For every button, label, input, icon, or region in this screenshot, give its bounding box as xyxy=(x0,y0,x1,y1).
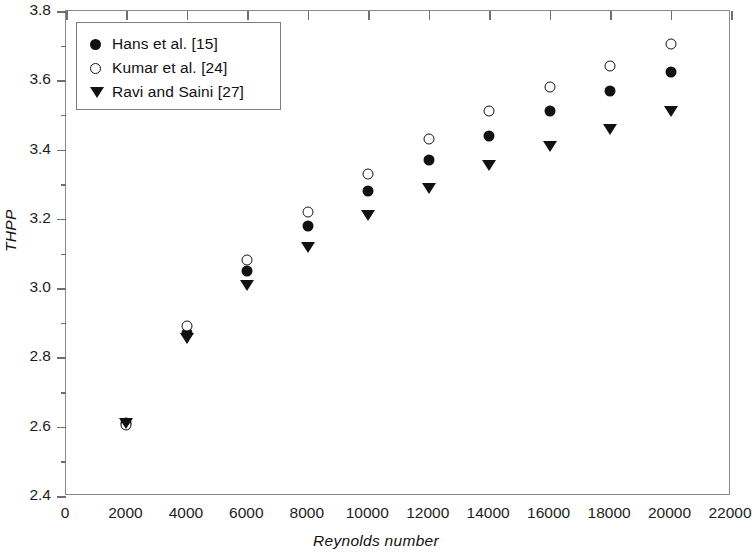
y-tick xyxy=(57,288,66,290)
y-minor-tick xyxy=(61,254,66,256)
y-tick-label: 2.8 xyxy=(29,348,51,364)
x-tick xyxy=(731,11,733,20)
data-point-down-triangle xyxy=(240,280,254,291)
data-point-filled-circle xyxy=(484,130,495,141)
y-tick xyxy=(57,150,66,152)
legend-label: Ravi and Saini [27] xyxy=(112,83,244,101)
scatter-chart-figure: THPP 2.42.62.83.03.23.43.63.8 0200040006… xyxy=(0,0,752,557)
y-tick xyxy=(57,11,66,13)
y-axis-title: THPP xyxy=(2,209,20,252)
x-tick xyxy=(489,11,491,20)
legend-entry-hans: Hans et al. [15] xyxy=(77,32,280,56)
data-point-open-circle xyxy=(363,168,374,179)
x-tick xyxy=(550,11,552,20)
y-tick xyxy=(57,427,66,429)
y-tick-label: 2.6 xyxy=(29,418,51,434)
y-minor-tick xyxy=(61,184,66,186)
data-point-open-circle xyxy=(484,106,495,117)
legend: Hans et al. [15] Kumar et al. [24] Ravi … xyxy=(76,22,281,110)
y-minor-tick xyxy=(61,392,66,394)
data-point-filled-circle xyxy=(242,265,253,276)
x-tick xyxy=(610,11,612,20)
y-tick-label: 3.2 xyxy=(29,210,51,226)
data-point-open-circle xyxy=(544,82,555,93)
x-tick xyxy=(671,11,673,20)
legend-entry-kumar: Kumar et al. [24] xyxy=(77,56,280,80)
y-tick xyxy=(57,357,66,359)
data-point-filled-circle xyxy=(544,106,555,117)
data-point-down-triangle xyxy=(301,242,315,253)
x-axis-title: Reynolds number xyxy=(0,532,752,550)
legend-entry-ravi: Ravi and Saini [27] xyxy=(77,80,280,104)
legend-label: Hans et al. [15] xyxy=(112,35,218,53)
y-minor-tick xyxy=(61,323,66,325)
y-minor-tick xyxy=(61,115,66,117)
x-tick xyxy=(187,11,189,20)
filled-circle-icon xyxy=(90,39,112,50)
y-tick-label: 3.6 xyxy=(29,71,51,87)
data-point-down-triangle xyxy=(603,124,617,135)
data-point-down-triangle xyxy=(361,210,375,221)
data-point-down-triangle xyxy=(119,418,133,429)
y-tick-label: 3.4 xyxy=(29,141,51,157)
x-tick xyxy=(429,11,431,20)
y-minor-tick xyxy=(61,461,66,463)
data-point-open-circle xyxy=(665,38,676,49)
data-point-down-triangle xyxy=(664,107,678,118)
y-tick-label: 3.8 xyxy=(29,2,51,18)
x-tick xyxy=(66,11,68,20)
y-minor-tick xyxy=(61,46,66,48)
data-point-open-circle xyxy=(302,206,313,217)
data-point-open-circle xyxy=(605,61,616,72)
y-tick xyxy=(57,496,66,498)
data-point-filled-circle xyxy=(605,85,616,96)
data-point-down-triangle xyxy=(482,160,496,171)
data-point-filled-circle xyxy=(363,186,374,197)
down-triangle-icon xyxy=(90,87,112,98)
x-tick xyxy=(247,11,249,20)
x-tick xyxy=(368,11,370,20)
data-point-open-circle xyxy=(242,255,253,266)
data-point-open-circle xyxy=(181,321,192,332)
data-point-filled-circle xyxy=(423,154,434,165)
x-tick xyxy=(308,11,310,20)
y-tick xyxy=(57,80,66,82)
x-tick-label: 22000 xyxy=(690,505,752,521)
data-point-filled-circle xyxy=(302,220,313,231)
data-point-open-circle xyxy=(423,134,434,145)
x-tick xyxy=(126,11,128,20)
y-tick-label: 3.0 xyxy=(29,279,51,295)
y-tick-label: 2.4 xyxy=(29,487,51,503)
data-point-down-triangle xyxy=(543,141,557,152)
data-point-down-triangle xyxy=(422,183,436,194)
legend-label: Kumar et al. [24] xyxy=(112,59,227,77)
y-tick xyxy=(57,219,66,221)
data-point-filled-circle xyxy=(665,66,676,77)
open-circle-icon xyxy=(90,63,112,74)
data-point-down-triangle xyxy=(180,333,194,344)
